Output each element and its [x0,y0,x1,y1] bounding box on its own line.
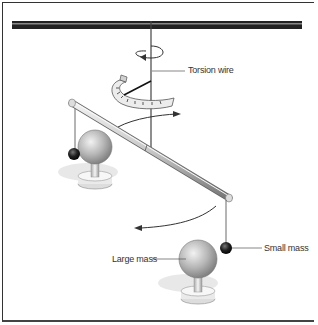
motion-arrow-right-icon [118,111,181,127]
angle-scale [112,75,174,109]
torsion-balance-illustration [0,0,318,325]
small-mass-right [220,242,232,254]
small-mass-left [68,148,80,160]
large-mass-right [179,240,217,304]
large-mass-left [78,130,112,189]
large-mass-label: Large mass [112,254,157,264]
motion-arrow-left-icon [134,206,216,231]
pointer [124,81,151,95]
rotation-arrow-icon [136,46,163,61]
torsion-wire-label: Torsion wire [188,65,234,75]
small-mass-label: Small mass [264,243,309,253]
ceiling-bar [12,21,302,29]
